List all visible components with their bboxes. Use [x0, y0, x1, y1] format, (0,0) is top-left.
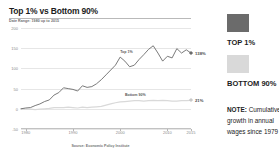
x-axis-tick-mark — [120, 129, 121, 131]
x-axis-tick-mark — [191, 129, 192, 131]
y-axis-tick-label: 0 — [16, 106, 18, 111]
plot-area: 200150100500-50 19801990200020102015 Top… — [21, 28, 191, 129]
top-endpoint-marker — [189, 51, 193, 55]
note-block: NOTE: Cumulative growth in annual wages … — [227, 104, 279, 137]
line-top-1 — [21, 46, 191, 109]
y-axis-tick-label: 150 — [11, 46, 18, 51]
x-axis-tick-mark — [73, 129, 74, 131]
x-axis-tick-mark — [167, 129, 168, 131]
chart-source: Source: Economic Policy Institute — [0, 144, 201, 148]
bottom-series-end-value: 21% — [195, 98, 203, 103]
page-title: Top 1% vs Bottom 90% — [9, 6, 98, 16]
note-prefix: NOTE: — [227, 106, 247, 113]
x-axis-tick-mark — [26, 129, 27, 131]
y-axis-tick-label: 50 — [14, 86, 18, 91]
legend-swatch-bottom-90 — [227, 55, 249, 73]
top-series-inline-label: Top 1% — [120, 50, 133, 54]
y-axis-tick-label: 100 — [11, 66, 18, 71]
legend-panel: TOP 1% BOTTOM 90% NOTE: Cumulative growt… — [205, 0, 279, 158]
legend-label-bottom-90: BOTTOM 90% — [227, 79, 276, 88]
y-axis-tick-label: -50 — [12, 127, 18, 132]
chart-screenshot: Top 1% vs Bottom 90% Date Range: 1980 up… — [0, 0, 279, 158]
bottom-series-inline-label: Bottom 90% — [125, 93, 146, 97]
chart-subtitle: Date Range: 1980 up to 2015 — [9, 19, 59, 23]
series-lines — [21, 28, 191, 129]
y-axis-tick-label: 200 — [11, 26, 18, 31]
legend-swatch-top-1 — [227, 14, 249, 32]
chart-panel: Top 1% vs Bottom 90% Date Range: 1980 up… — [0, 0, 201, 158]
legend-label-top-1: TOP 1% — [227, 38, 255, 47]
line-bottom-90 — [21, 100, 191, 109]
